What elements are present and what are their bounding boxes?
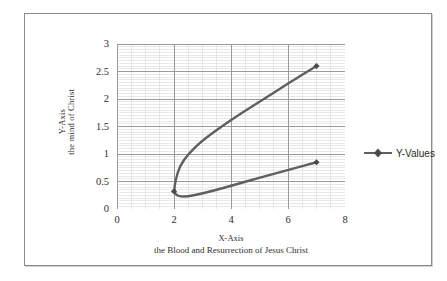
y-axis-title-line2: the mind of Christ (67, 89, 76, 155)
x-tick-label: 0 (102, 214, 132, 225)
plot-area (117, 44, 345, 209)
y-tick-label: 0 (75, 203, 109, 214)
x-tick-label: 2 (159, 214, 189, 225)
x-tick-label: 8 (330, 214, 360, 225)
legend-series-label: Y-Values (396, 148, 435, 159)
y-tick-label: 1 (75, 148, 109, 159)
y-tick-label: 3 (75, 38, 109, 49)
x-axis-title: X-Axis the Blood and Resurrection of Jes… (117, 233, 345, 257)
y-tick-label: 2 (75, 93, 109, 104)
legend: Y-Values (363, 147, 435, 159)
x-axis-title-line1: X-Axis (117, 233, 345, 244)
x-tick-label: 6 (273, 214, 303, 225)
chart-frame: 3 2.5 2 1.5 1 0.5 0 0 2 4 6 8 Y-Axis the… (24, 13, 432, 266)
x-tick-label: 4 (216, 214, 246, 225)
legend-series-marker-icon (363, 147, 393, 159)
y-tick-label: 0.5 (75, 176, 109, 187)
y-axis-title: Y-Axis the mind of Christ (55, 72, 79, 172)
chart-screenshot: 3 2.5 2 1.5 1 0.5 0 0 2 4 6 8 Y-Axis the… (0, 0, 447, 281)
plot-svg (117, 44, 345, 209)
x-axis-title-line2: the Blood and Resurrection of Jesus Chri… (117, 244, 345, 256)
y-tick-label: 1.5 (75, 121, 109, 132)
y-tick-label: 2.5 (75, 66, 109, 77)
